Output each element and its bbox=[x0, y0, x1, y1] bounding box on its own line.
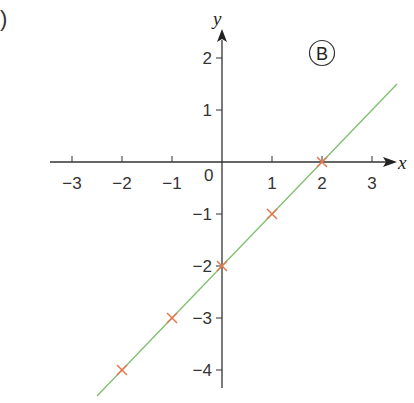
plotted-line bbox=[97, 84, 397, 396]
plot-area bbox=[97, 84, 397, 396]
y-axis: y 21−1−2−3−4 bbox=[193, 8, 227, 388]
x-tick-label: 2 bbox=[317, 174, 326, 193]
y-tick-label: −2 bbox=[193, 257, 212, 276]
y-tick-label: 1 bbox=[203, 101, 212, 120]
coordinate-graph: ) x −3−2−1123 y 21−1−2−3−4 0 B bbox=[0, 0, 414, 403]
x-tick-label: −3 bbox=[62, 174, 81, 193]
svg-text:B: B bbox=[316, 44, 328, 64]
part-label-fragment: ) bbox=[0, 6, 7, 31]
y-tick-label: 2 bbox=[203, 49, 212, 68]
x-tick-label: −1 bbox=[162, 174, 181, 193]
cross-marker-icon bbox=[167, 313, 177, 323]
y-tick-label: −4 bbox=[193, 361, 212, 380]
x-tick-label: 3 bbox=[367, 174, 376, 193]
x-axis-name: x bbox=[397, 152, 407, 173]
y-axis-name: y bbox=[211, 8, 222, 29]
x-tick-label: 1 bbox=[267, 174, 276, 193]
cross-marker-icon bbox=[117, 365, 127, 375]
origin-label: 0 bbox=[204, 166, 213, 185]
x-tick-label: −2 bbox=[112, 174, 131, 193]
y-tick-label: −3 bbox=[193, 309, 212, 328]
cross-marker-icon bbox=[267, 209, 277, 219]
x-axis: x −3−2−1123 bbox=[50, 152, 407, 193]
y-tick-label: −1 bbox=[193, 205, 212, 224]
graph-badge: B bbox=[310, 41, 335, 66]
y-ticks: 21−1−2−3−4 bbox=[193, 49, 222, 380]
